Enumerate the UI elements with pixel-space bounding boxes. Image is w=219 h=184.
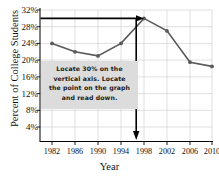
data-series-line <box>52 18 212 66</box>
x-axis-title: Year <box>0 161 219 172</box>
line-chart: Percent of College Students 32% 28% 24% … <box>0 0 219 184</box>
y-axis-ticks <box>37 10 41 127</box>
callout-line-2: vertical axis. Locate <box>43 74 136 84</box>
horizontal-arrow-annotation <box>41 15 145 21</box>
callout-annotation: Locate 30% on the vertical axis. Locate … <box>41 61 138 109</box>
callout-line-4: and read down. <box>43 93 136 103</box>
callout-line-3: the point on the graph <box>43 83 136 93</box>
x-tick-label: 2010 <box>198 147 219 156</box>
x-axis-ticks <box>52 142 212 146</box>
callout-line-1: Locate 30% on the <box>43 64 136 74</box>
